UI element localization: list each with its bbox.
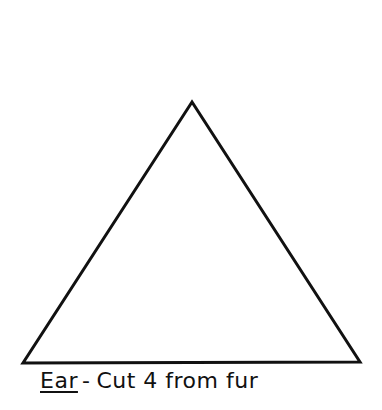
ear-pattern-triangle (0, 0, 382, 410)
piece-name: Ear (40, 368, 78, 393)
triangle-outline (23, 102, 360, 363)
pattern-caption: Ear-Cut 4 from fur (40, 368, 258, 393)
cut-instruction: Cut 4 from fur (96, 368, 258, 393)
caption-separator: - (82, 368, 90, 393)
